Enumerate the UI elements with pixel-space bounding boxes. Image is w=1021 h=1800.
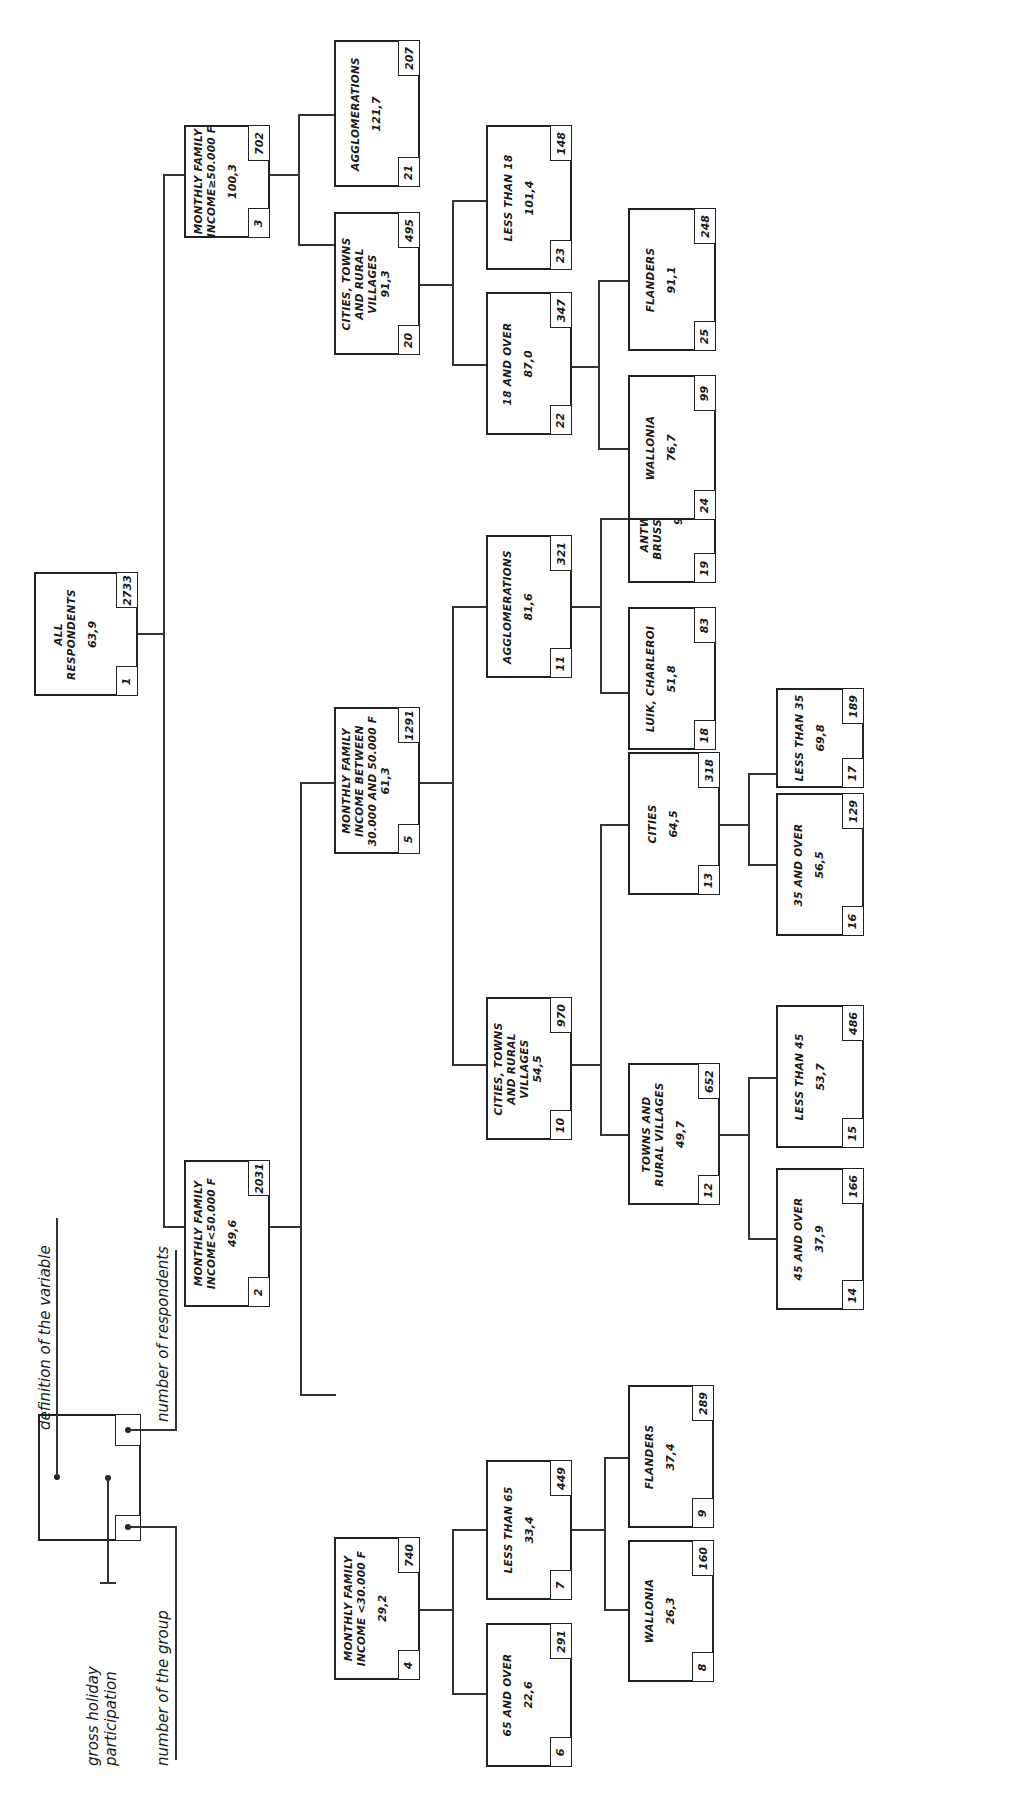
node-group-number: 1 (116, 666, 138, 696)
node-15: LESS THAN 4553,7 486 15 (776, 1005, 864, 1148)
node-respondents: 486 (842, 1005, 864, 1041)
node-label: 65 AND OVER (501, 1654, 514, 1737)
node-20: CITIES, TOWNSAND RURALVILLAGES91,3 495 2… (334, 212, 420, 355)
legend-participation-text-1: gross holiday (84, 1666, 102, 1766)
node-respondents: 99 (694, 375, 716, 411)
node-group-number: 3 (248, 208, 270, 238)
node-group-number: 5 (398, 824, 420, 854)
node-value: 54,5 (531, 1022, 544, 1115)
node-group-number: 10 (550, 1110, 572, 1140)
legend-definition-text: definition of the variable (36, 1245, 54, 1430)
node-11: AGGLOMERATIONS81,6 321 11 (486, 535, 572, 678)
legend-group-text: number of the group (154, 1610, 172, 1766)
node-respondents: 449 (550, 1460, 572, 1496)
node-respondents: 495 (398, 212, 420, 248)
node-1: ALLRESPONDENTS63,9 2733 1 (34, 572, 138, 696)
node-group-number: 18 (694, 720, 716, 750)
node-value: 91,3 (379, 237, 392, 330)
node-respondents: 970 (550, 997, 572, 1033)
node-respondents: 318 (698, 752, 720, 788)
node-13: CITIES64,5 318 13 (628, 752, 720, 895)
node-label: AGGLOMERATIONS (501, 550, 514, 664)
node-respondents: 291 (550, 1623, 572, 1659)
node-label: MONTHLY FAMILYINCOME <30.000 F (343, 1551, 369, 1667)
node-group-number: 12 (698, 1175, 720, 1205)
node-group-number: 7 (550, 1570, 572, 1600)
node-label: LESS THAN 45 (792, 1033, 805, 1120)
node-group-number: 24 (694, 490, 716, 520)
node-17: LESS THAN 3569,8 189 17 (776, 688, 864, 788)
node-respondents: 248 (694, 208, 716, 244)
node-label: MONTHLY FAMILYINCOME<50.000 F (193, 1178, 219, 1290)
node-label: LESS THAN 65 (501, 1487, 514, 1574)
node-group-number: 21 (398, 157, 420, 187)
node-label: MONTHLY FAMILYINCOME≥50.000 F (193, 126, 219, 238)
node-label: WALLONIA (643, 1579, 656, 1644)
node-group-number: 20 (398, 325, 420, 355)
node-12: TOWNS ANDRURAL VILLAGES49,7 652 12 (628, 1063, 720, 1205)
node-value: 91,1 (665, 247, 678, 312)
node-label: WALLONIA (644, 415, 657, 480)
node-label: ALLRESPONDENTS (52, 589, 78, 680)
node-2: MONTHLY FAMILYINCOME<50.000 F49,6 2031 2 (184, 1160, 270, 1307)
node-respondents: 83 (694, 607, 716, 643)
node-18: LUIK, CHARLEROI51,8 83 18 (628, 607, 716, 750)
node-8: WALLONIA26,3 160 8 (628, 1540, 714, 1682)
node-group-number: 9 (692, 1498, 714, 1528)
node-value: 22,6 (522, 1654, 535, 1737)
node-label: FLANDERS (644, 247, 657, 312)
node-value: 33,4 (522, 1487, 535, 1574)
legend-respondents-text: number of respondents (154, 1246, 172, 1422)
node-label: CITIES, TOWNSAND RURALVILLAGES (340, 237, 379, 330)
node-label: 45 AND OVER (792, 1198, 805, 1281)
node-respondents: 160 (692, 1540, 714, 1576)
node-value: 56,5 (813, 823, 826, 906)
node-4: MONTHLY FAMILYINCOME <30.000 F29,2 740 4 (334, 1537, 420, 1680)
node-value: 49,6 (227, 1178, 240, 1290)
node-respondents: 321 (550, 535, 572, 571)
legend-line-group-v (175, 1526, 177, 1760)
node-value: 101,4 (522, 154, 535, 241)
node-respondents: 652 (698, 1063, 720, 1099)
node-respondents: 289 (692, 1385, 714, 1421)
node-group-number: 8 (692, 1652, 714, 1682)
node-group-number: 15 (842, 1118, 864, 1148)
node-10: CITIES, TOWNSAND RURALVILLAGES54,5 970 1… (486, 997, 572, 1140)
node-label: AGGLOMERATIONS (349, 57, 362, 171)
node-respondents: 129 (842, 793, 864, 829)
node-9: FLANDERS37,4 289 9 (628, 1385, 714, 1528)
node-label: MONTHLY FAMILYINCOME BETWEEN30.000 AND 5… (340, 715, 379, 846)
node-respondents: 702 (248, 125, 270, 161)
node-value: 63,9 (86, 589, 99, 680)
node-21: AGGLOMERATIONS121,7 207 21 (334, 40, 420, 187)
node-group-number: 2 (248, 1277, 270, 1307)
node-group-number: 22 (550, 405, 572, 435)
node-group-number: 25 (694, 321, 716, 351)
node-value: 53,7 (813, 1033, 826, 1120)
node-value: 37,9 (813, 1198, 826, 1281)
node-respondents: 740 (398, 1537, 420, 1573)
node-value: 81,6 (522, 550, 535, 664)
node-value: 26,3 (664, 1579, 677, 1644)
node-value: 29,2 (377, 1551, 390, 1667)
node-value: 49,7 (674, 1082, 687, 1186)
legend-line-definition (56, 1218, 58, 1476)
node-group-number: 14 (842, 1280, 864, 1310)
node-label: LESS THAN 35 (792, 695, 805, 782)
legend-line-respondents-h (128, 1429, 176, 1431)
node-23: LESS THAN 18101,4 148 23 (486, 125, 572, 270)
node-3: MONTHLY FAMILYINCOME≥50.000 F100,3 702 3 (184, 125, 270, 238)
node-label: LUIK, CHARLEROI (644, 625, 657, 731)
legend-line-group-h (128, 1526, 176, 1528)
node-label: CITIES, TOWNSAND RURALVILLAGES (492, 1022, 531, 1115)
legend-line-participation (107, 1477, 109, 1583)
node-label: FLANDERS (643, 1424, 656, 1489)
node-respondents: 148 (550, 125, 572, 161)
node-label: CITIES (646, 804, 659, 843)
node-group-number: 6 (550, 1737, 572, 1767)
node-respondents: 189 (842, 688, 864, 724)
node-16: 35 AND OVER56,5 129 16 (776, 793, 864, 936)
node-14: 45 AND OVER37,9 166 14 (776, 1168, 864, 1310)
node-value: 61,3 (379, 715, 392, 846)
legend-line-participation-tick (100, 1582, 116, 1584)
